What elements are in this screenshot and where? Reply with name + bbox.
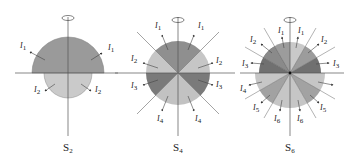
panel-s2: I1 I1 I2 I2 S2 — [15, 16, 118, 156]
label-I4-left: I4 — [239, 84, 247, 95]
label-I5-right: I5 — [319, 103, 327, 114]
label-I4-left: I4 — [156, 114, 164, 125]
label-I3-right: I3 — [215, 80, 223, 91]
center-point — [289, 72, 292, 75]
label-I6-right: I6 — [296, 114, 304, 125]
diagram-canvas: I1 I1 I2 I2 S2 I1 I1 I2 I2 — [0, 0, 355, 164]
label-I1-right: I1 — [297, 26, 305, 37]
label-I6-left: I6 — [273, 114, 281, 125]
panel-s6: I1 I1 I2 I2 I3 I3 I4 I5 I5 I6 I6 S6 — [239, 17, 344, 155]
intensity-arrow — [261, 44, 272, 53]
intensity-arrow — [308, 44, 319, 53]
label-I1-left: I1 — [19, 41, 27, 52]
caption-s6: S6 — [285, 141, 295, 155]
label-I2-left: I2 — [33, 85, 41, 96]
panel-s4: I1 I1 I2 I2 I3 I3 I4 I4 S4 — [115, 17, 235, 155]
label-I2-right: I2 — [94, 85, 102, 96]
label-I4-right: I4 — [194, 114, 202, 125]
label-I2-right: I2 — [320, 35, 328, 46]
caption-s4: S4 — [173, 141, 183, 155]
caption-s2: S2 — [63, 141, 73, 155]
label-I1-left: I1 — [277, 26, 285, 37]
label-I2-left: I2 — [249, 35, 257, 46]
label-I1-left: I1 — [154, 21, 162, 32]
label-I1-right: I1 — [197, 21, 205, 32]
label-I1-right: I1 — [107, 43, 115, 54]
label-I2-left: I2 — [130, 54, 138, 65]
label-I5-left: I5 — [252, 103, 260, 114]
label-I3-right: I3 — [332, 59, 340, 70]
label-I3-left: I3 — [130, 81, 138, 92]
label-I3-left: I3 — [241, 59, 249, 70]
label-I2-right: I2 — [215, 56, 223, 67]
